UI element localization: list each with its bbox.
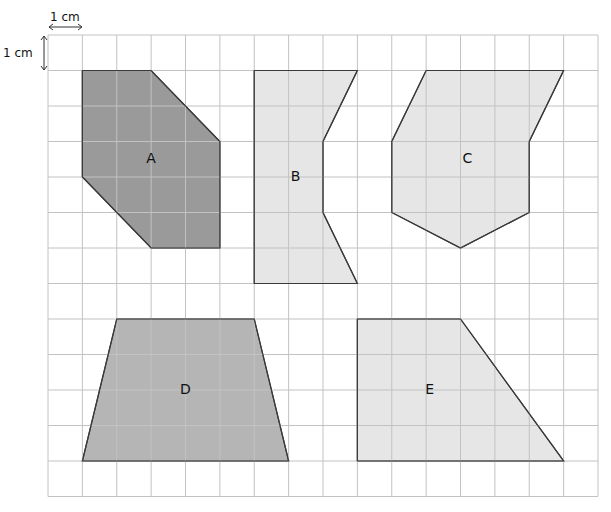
- vertical-scale-label: 1 cm: [3, 46, 33, 60]
- shape-label-b: B: [291, 168, 301, 184]
- shape-label-a: A: [146, 150, 156, 166]
- horizontal-scale-label: 1 cm: [50, 10, 80, 24]
- grid-diagram: ABCDE 1 cm 1 cm: [0, 0, 611, 512]
- shape-label-d: D: [180, 381, 191, 397]
- scale-indicator: 1 cm 1 cm: [3, 10, 82, 70]
- shape-label-c: C: [462, 150, 472, 166]
- shape-c: [392, 71, 564, 249]
- shape-label-e: E: [425, 381, 434, 397]
